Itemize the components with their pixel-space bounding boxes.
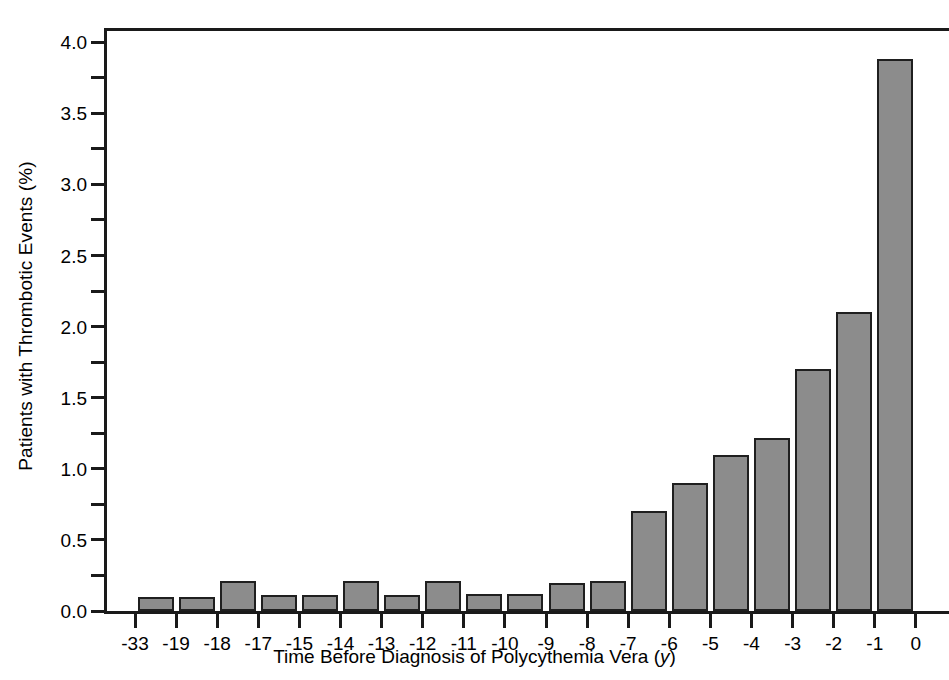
y-axis-tick-major	[91, 183, 104, 186]
y-axis-tick-label: 0.0	[27, 602, 87, 621]
x-axis-tick	[668, 614, 671, 628]
x-axis-tick	[709, 614, 712, 628]
x-axis-tick	[545, 614, 548, 628]
x-axis-line	[104, 611, 949, 614]
y-axis-tick-major	[91, 254, 104, 257]
x-axis-tick	[380, 614, 383, 628]
bar	[836, 312, 872, 611]
y-axis-tick-major	[91, 538, 104, 541]
bar	[672, 483, 708, 611]
x-axis-tick	[791, 614, 794, 628]
bar	[179, 597, 215, 611]
y-axis-tick-label: 4.0	[27, 33, 87, 52]
x-axis-tick	[627, 614, 630, 628]
x-axis-tick	[134, 614, 137, 628]
y-axis-tick-major	[91, 41, 104, 44]
bar	[302, 595, 338, 611]
x-axis-title-suffix: )	[670, 646, 676, 667]
y-axis-tick-minor	[91, 574, 104, 577]
bar	[713, 455, 749, 611]
x-axis-tick	[298, 614, 301, 628]
y-axis-tick-major	[91, 610, 104, 613]
bar	[261, 595, 297, 611]
y-axis-tick-major	[91, 112, 104, 115]
y-axis-tick-label: 2.0	[27, 317, 87, 336]
x-axis-tick	[586, 614, 589, 628]
bar	[877, 59, 913, 611]
x-axis-tick	[339, 614, 342, 628]
bar	[754, 438, 790, 611]
y-axis-tick-label: 1.0	[27, 459, 87, 478]
x-axis-tick	[257, 614, 260, 628]
bar	[384, 595, 420, 611]
x-axis-tick	[421, 614, 424, 628]
bar	[507, 594, 543, 611]
x-axis-tick	[462, 614, 465, 628]
bar	[138, 597, 174, 611]
bar	[590, 581, 626, 611]
bar	[549, 583, 585, 611]
bar	[220, 581, 256, 611]
x-axis-tick	[175, 614, 178, 628]
y-axis-tick-major	[91, 325, 104, 328]
y-axis-tick-minor	[91, 76, 104, 79]
x-axis-title-unit: y	[660, 646, 670, 667]
y-axis-tick-minor	[91, 218, 104, 221]
bar	[795, 369, 831, 611]
x-axis-tick	[750, 614, 753, 628]
x-axis-title-prefix: Time Before Diagnosis of Polycythemia Ve…	[273, 646, 660, 667]
y-axis-tick-minor	[91, 432, 104, 435]
y-axis-tick-minor	[91, 290, 104, 293]
plot-top-border	[104, 28, 949, 31]
bar	[343, 581, 379, 611]
y-axis-tick-label: 1.5	[27, 388, 87, 407]
y-axis-tick-label: 0.5	[27, 530, 87, 549]
y-axis-tick-label: 2.5	[27, 246, 87, 265]
x-axis-tick	[873, 614, 876, 628]
x-axis-title: Time Before Diagnosis of Polycythemia Ve…	[0, 646, 949, 668]
y-axis-tick-minor	[91, 147, 104, 150]
x-axis-tick	[914, 614, 917, 628]
chart-figure: Patients with Thrombotic Events (%) 0.00…	[0, 0, 949, 680]
x-axis-tick	[216, 614, 219, 628]
bar	[466, 594, 502, 611]
y-axis-tick-minor	[91, 503, 104, 506]
bar	[425, 581, 461, 611]
x-axis-tick	[832, 614, 835, 628]
y-axis-tick-minor	[91, 361, 104, 364]
y-axis-tick-label: 3.0	[27, 175, 87, 194]
y-axis-line	[104, 28, 107, 614]
y-axis-tick-major	[91, 467, 104, 470]
y-axis-tick-major	[91, 396, 104, 399]
y-axis-tick-label: 3.5	[27, 104, 87, 123]
plot-area: 0.00.51.01.52.02.53.03.54.0 -33-19-18-17…	[104, 28, 949, 614]
x-axis-tick	[503, 614, 506, 628]
bar	[631, 511, 667, 611]
